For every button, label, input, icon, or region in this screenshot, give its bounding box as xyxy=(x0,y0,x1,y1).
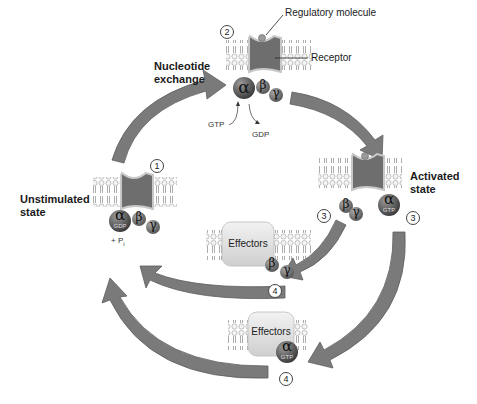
regulatory-molecule-icon xyxy=(259,35,266,42)
membrane-receptor-exchange xyxy=(226,15,312,125)
gamma-symbol: γ xyxy=(146,218,160,232)
step-3-badge-alpha: 3 xyxy=(406,211,420,225)
alpha-symbol: α xyxy=(378,190,400,208)
regulatory-molecule-label: Regulatory molecule xyxy=(285,7,376,18)
arrow-exchange-to-activated xyxy=(290,92,383,160)
effectors-label-lower: Effectors xyxy=(248,326,294,337)
membrane-receptor-unstimulated xyxy=(93,173,177,234)
beta-symbol: β xyxy=(256,78,270,92)
step-4-badge-betagamma: 4 xyxy=(268,284,282,298)
gtp-tag: GTP xyxy=(378,207,400,213)
gtp-label: GTP xyxy=(208,120,224,129)
nucleotide-exchange-label: Nucleotide exchange xyxy=(154,60,210,86)
unstimulated-state-label: Unstimulated state xyxy=(20,193,90,219)
step-1-badge: 1 xyxy=(150,159,164,173)
gamma-symbol: γ xyxy=(269,86,283,100)
alpha-symbol: α xyxy=(233,77,255,97)
step-4-badge-alpha: 4 xyxy=(279,372,293,386)
gdp-tag: GDP xyxy=(109,223,131,229)
alpha-symbol: α xyxy=(276,337,298,355)
arrow-effector-betagamma-to-unstimulated xyxy=(140,266,285,299)
beta-symbol: β xyxy=(265,256,279,270)
receptor-label: Receptor xyxy=(311,52,352,63)
activated-state-label: Activated state xyxy=(410,170,460,196)
step-2-badge: 2 xyxy=(220,25,234,39)
beta-symbol: β xyxy=(132,210,146,224)
g-protein-cycle-diagram: Regulatory molecule Receptor Nucleotide … xyxy=(0,0,477,404)
phosphate-label: + Pi xyxy=(111,236,125,247)
step-3-badge-betagamma: 3 xyxy=(317,209,331,223)
gdp-label: GDP xyxy=(252,130,269,139)
alpha-symbol: α xyxy=(109,206,131,224)
gamma-symbol: γ xyxy=(349,205,363,219)
gtp-tag: GTP xyxy=(276,354,298,360)
gamma-symbol: γ xyxy=(280,263,294,277)
effectors-label-upper: Effectors xyxy=(222,238,274,249)
